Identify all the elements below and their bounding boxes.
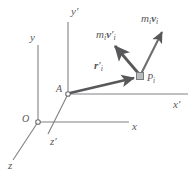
mechanics-diagram-figure: y y′ x x′ z z′ O A Pi r′i miv′i mivi bbox=[0, 0, 196, 177]
vector-label-mi-vi: mivi bbox=[141, 13, 158, 26]
axis-line-z-prime bbox=[48, 94, 68, 134]
vector-mi-v-prime-i bbox=[115, 46, 139, 74]
axis-label-z: z bbox=[8, 160, 12, 171]
vector-label-mi-v-prime-i: miv′i bbox=[96, 29, 116, 42]
translating-frame-axes bbox=[48, 22, 188, 134]
axis-label-y-prime: y′ bbox=[71, 6, 78, 17]
point-label-Pi: Pi bbox=[147, 73, 155, 85]
diagram-canvas bbox=[0, 0, 196, 177]
axis-line-z bbox=[13, 122, 38, 160]
origin-marker-O bbox=[36, 120, 41, 125]
axis-label-y: y bbox=[30, 32, 35, 43]
origin-marker-A bbox=[66, 92, 71, 97]
vector-r-prime-i bbox=[70, 78, 134, 93]
vector-label-r-prime-i: r′i bbox=[94, 60, 103, 73]
particle-marker-Pi bbox=[137, 73, 144, 80]
axis-label-x-prime: x′ bbox=[173, 99, 180, 110]
point-label-O: O bbox=[22, 114, 29, 124]
axis-label-z-prime: z′ bbox=[50, 136, 57, 147]
vector-mi-vi bbox=[141, 32, 162, 74]
point-label-A: A bbox=[56, 84, 62, 94]
axis-label-x: x bbox=[132, 121, 137, 132]
inertial-frame-axes bbox=[13, 45, 129, 160]
